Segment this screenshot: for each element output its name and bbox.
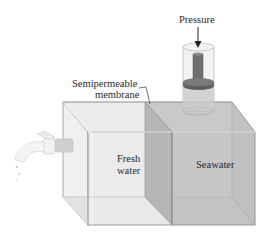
membrane-label-line2: membrane [95,89,139,100]
fresh-water-label-line1: Fresh [117,153,140,164]
fresh-water-label-line2: water [117,165,140,176]
membrane-label-line1: Semipermeable [72,78,137,89]
seawater-label: Seawater [196,159,234,170]
reverse-osmosis-diagram [0,0,265,238]
membrane-leader-line [139,87,150,104]
pressure-label: Pressure [179,14,215,25]
